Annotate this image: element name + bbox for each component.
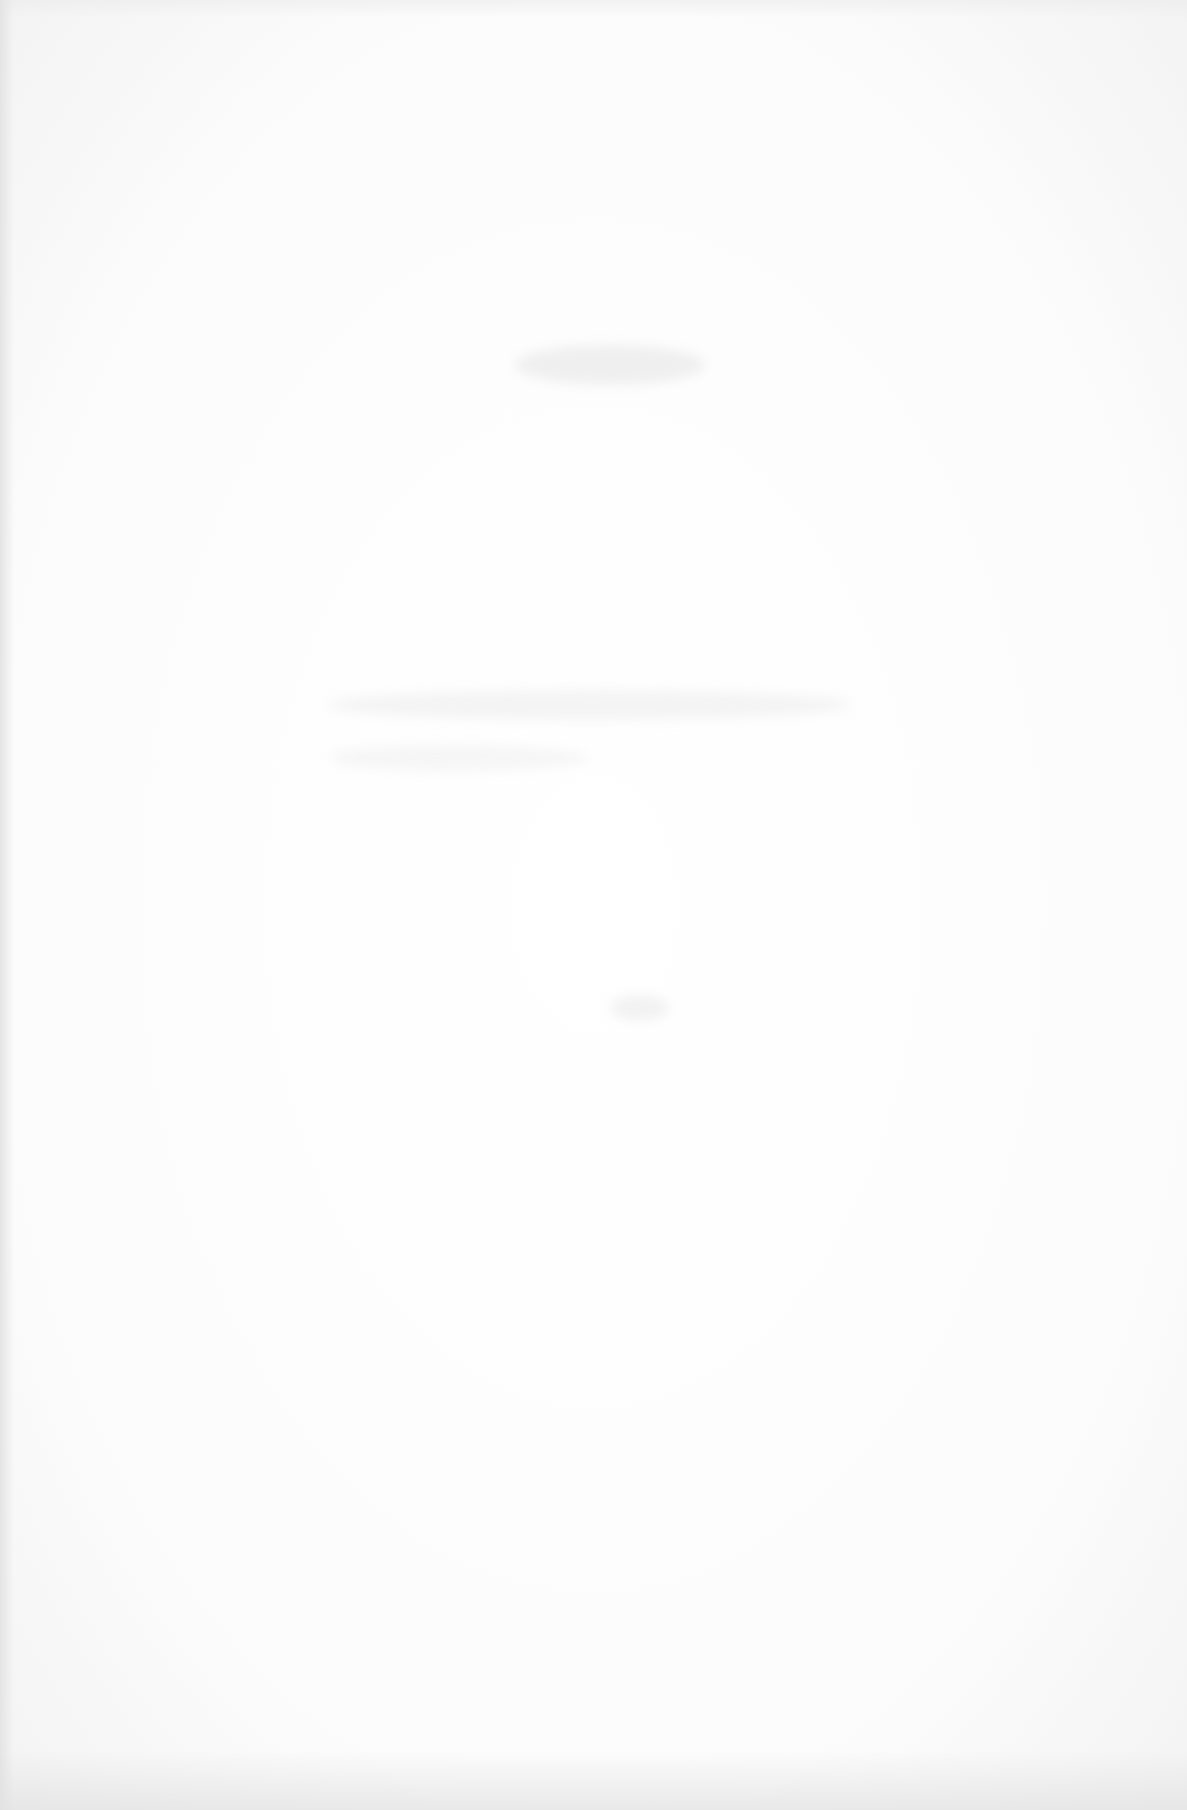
- page-left-shadow: [0, 0, 14, 1810]
- bleed-mark-line-2: [330, 745, 590, 771]
- bleed-mark-line-1: [330, 690, 850, 720]
- scanned-page: [0, 0, 1187, 1810]
- bleed-mark-title: [515, 345, 705, 385]
- bleed-mark-small: [610, 995, 670, 1021]
- page-top-shadow: [0, 0, 1187, 18]
- page-bottom-shadow: [0, 1750, 1187, 1810]
